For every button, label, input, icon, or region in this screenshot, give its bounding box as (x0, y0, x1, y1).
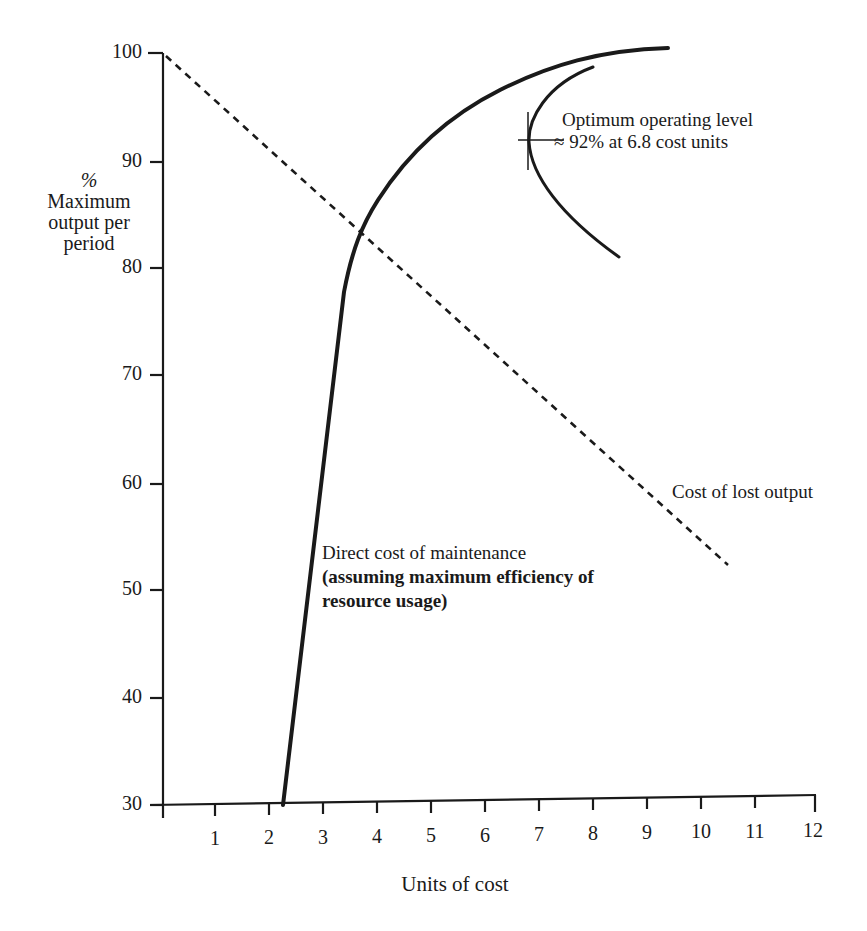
x-tick-6: 6 (465, 824, 505, 847)
y-tick-60: 60 (82, 471, 142, 494)
x-tick-3: 3 (303, 826, 343, 849)
lost-output-annotation: Cost of lost output (672, 481, 813, 503)
x-tick-1: 1 (195, 827, 235, 850)
y-axis-title-line-1: % (34, 170, 144, 191)
y-tick-30: 30 (82, 792, 142, 815)
optimum-annotation-line-2: ≈ 92% at 6.8 cost units (554, 131, 728, 153)
x-tick-4: 4 (357, 825, 397, 848)
y-axis-title: % Maximum output per period (34, 170, 144, 254)
y-axis (148, 53, 163, 818)
x-tick-5: 5 (411, 824, 451, 847)
x-tick-12: 12 (793, 819, 833, 842)
x-tick-9: 9 (627, 821, 667, 844)
x-tick-10: 10 (681, 820, 721, 843)
direct-cost-curve (283, 48, 668, 805)
direct-cost-annotation-line-1: Direct cost of maintenance (322, 542, 526, 564)
optimum-annotation-line-1: Optimum operating level (562, 109, 753, 131)
y-tick-70: 70 (82, 362, 142, 385)
x-tick-7: 7 (519, 823, 559, 846)
x-tick-2: 2 (249, 826, 289, 849)
x-tick-11: 11 (735, 820, 775, 843)
direct-cost-annotation-line-3: resource usage) (322, 590, 447, 612)
y-axis-title-line-2: Maximum (34, 191, 144, 212)
y-tick-40: 40 (82, 685, 142, 708)
x-tick-8: 8 (573, 822, 613, 845)
x-axis-title: Units of cost (370, 872, 540, 897)
y-tick-80: 80 (82, 255, 142, 278)
x-axis (150, 795, 816, 816)
direct-cost-annotation-line-2: (assuming maximum efficiency of (322, 566, 594, 588)
optimum-curve (529, 67, 619, 257)
y-axis-title-line-3: output per (34, 212, 144, 233)
y-axis-title-line-4: period (34, 233, 144, 254)
y-tick-50: 50 (82, 577, 142, 600)
y-tick-100: 100 (82, 40, 142, 63)
